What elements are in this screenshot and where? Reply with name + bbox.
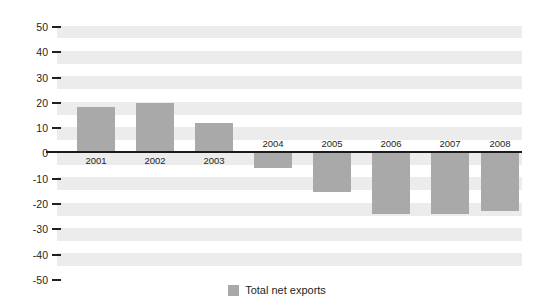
zero-axis-line — [46, 151, 522, 153]
y-tick-label-30: 30 — [14, 73, 48, 83]
x-label-2008: 2008 — [481, 138, 519, 149]
y-tick-label-20: 20 — [14, 98, 48, 108]
grid-band — [57, 253, 522, 266]
y-tick-dash — [52, 178, 61, 180]
bar-2008[interactable] — [481, 153, 519, 211]
bar-2004[interactable] — [254, 153, 292, 168]
x-label-2005: 2005 — [313, 138, 351, 149]
grid-band — [57, 51, 522, 64]
y-tick-label-0: 0 — [14, 148, 48, 158]
y-tick-label-n30: -30 — [14, 224, 48, 234]
y-tick-dash — [52, 203, 61, 205]
grid-band — [57, 76, 522, 89]
y-tick-dash — [52, 51, 61, 53]
y-tick-dash — [52, 254, 61, 256]
x-label-2006: 2006 — [372, 138, 410, 149]
x-label-2004: 2004 — [254, 138, 292, 149]
bar-2002[interactable] — [136, 103, 174, 152]
legend-swatch-total-net-exports — [228, 285, 239, 296]
y-tick-label-n20: -20 — [14, 199, 48, 209]
y-tick-label-50: 50 — [14, 22, 48, 32]
y-tick-dash — [52, 26, 61, 28]
bar-2007[interactable] — [431, 153, 469, 214]
legend-label-total-net-exports: Total net exports — [245, 284, 326, 296]
x-label-2001: 2001 — [77, 155, 115, 166]
y-tick-dash — [52, 77, 61, 79]
y-tick-dash — [52, 127, 61, 129]
y-tick-dash — [52, 228, 61, 230]
y-tick-label-10: 10 — [14, 123, 48, 133]
chart-legend: Total net exports — [0, 284, 554, 296]
y-tick-dash — [52, 102, 61, 104]
x-label-2002: 2002 — [136, 155, 174, 166]
grid-band — [57, 102, 522, 115]
bar-2006[interactable] — [372, 153, 410, 214]
bar-2005[interactable] — [313, 153, 351, 192]
y-tick-label-n40: -40 — [14, 250, 48, 260]
x-label-2003: 2003 — [195, 155, 233, 166]
grid-band — [57, 228, 522, 241]
grid-band — [57, 26, 522, 38]
bar-2001[interactable] — [77, 107, 115, 152]
y-tick-label-40: 40 — [14, 47, 48, 57]
y-tick-label-n10: -10 — [14, 174, 48, 184]
x-label-2007: 2007 — [431, 138, 469, 149]
y-tick-dash — [52, 279, 61, 281]
bar-2003[interactable] — [195, 123, 233, 152]
bar-chart: 50 40 30 20 10 0 -10 -20 -30 -40 -50 200… — [0, 0, 554, 306]
